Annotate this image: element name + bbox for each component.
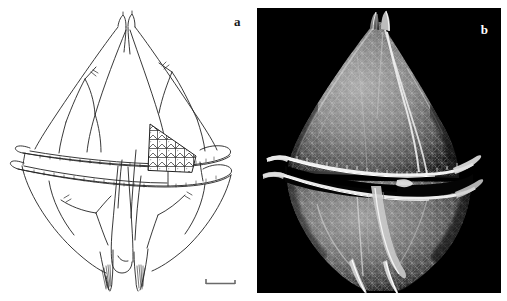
line-drawing-graphic [0, 0, 256, 301]
epitheca-plate-sutures [59, 62, 205, 153]
sulcus [111, 150, 141, 273]
panel-label-b: b [481, 23, 488, 36]
cingulum-list-upper [15, 146, 230, 167]
hypotheca-plate-sutures [61, 192, 192, 248]
figure-container: a [0, 0, 507, 301]
panel-b-sem-micrograph: b [257, 8, 501, 293]
panel-a-line-drawing: a [0, 0, 256, 301]
panel-label-a: a [234, 15, 241, 28]
apical-horn [118, 11, 135, 54]
hypotheca-outline [22, 166, 231, 273]
epitheca-outline [35, 27, 217, 153]
antapical-spine-right [134, 249, 148, 291]
scale-bar-panel-a [205, 278, 236, 285]
reticulate-plate-patch [148, 124, 196, 172]
sem-micrograph-graphic [257, 8, 501, 293]
